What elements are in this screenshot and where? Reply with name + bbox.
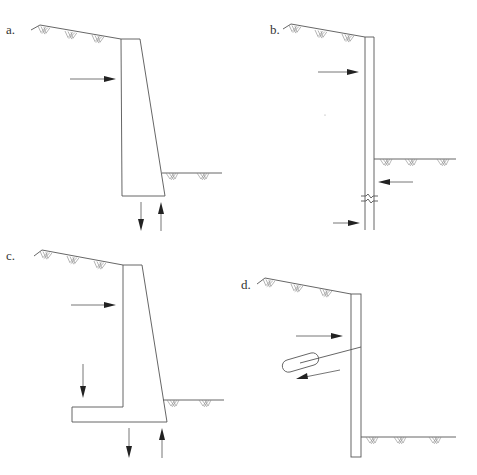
panel-d-sheet-pile xyxy=(351,294,361,457)
panel-c-soil-weight-arrow xyxy=(80,364,86,398)
panel-c-earth-pressure-arrow xyxy=(71,302,116,308)
panel-a-front-ground xyxy=(162,173,222,180)
panel-b-passive-pressure-arrow xyxy=(378,179,413,185)
panel-d-earth-pressure-arrow xyxy=(296,333,343,339)
panel-b-label: b. xyxy=(270,22,280,37)
panel-c-backfill-ground xyxy=(34,250,123,270)
panel-b-sheet-pile xyxy=(361,37,378,230)
panel-d-front-ground xyxy=(361,437,456,444)
panel-d-label: d. xyxy=(241,277,251,292)
panel-c: c. xyxy=(6,248,224,458)
panel-a-down-arrow xyxy=(138,202,144,231)
panel-b-backfill-ground xyxy=(283,24,365,43)
speck xyxy=(324,114,325,115)
panel-d-backfill-ground xyxy=(257,278,351,298)
panel-c-down-arrow xyxy=(126,428,132,458)
panel-a-earth-pressure-arrow xyxy=(70,76,116,82)
panel-a-up-arrow xyxy=(158,202,164,231)
panel-b: b. xyxy=(270,22,456,230)
panel-d-tieback-anchor xyxy=(282,347,361,372)
panel-c-up-arrow xyxy=(159,428,165,458)
panel-b-toe-pressure-arrow xyxy=(333,220,360,226)
retaining-walls-diagram: a. b. xyxy=(0,0,477,475)
panel-d: d. xyxy=(241,277,456,457)
panel-c-front-ground xyxy=(163,400,224,407)
panel-a-gravity-wall xyxy=(121,39,165,196)
panel-b-front-ground xyxy=(374,159,456,166)
panel-c-label: c. xyxy=(6,248,15,263)
panel-c-cantilever-wall xyxy=(72,265,167,422)
panel-b-active-pressure-arrow xyxy=(318,69,359,75)
panel-a-backfill-ground xyxy=(31,25,121,44)
panel-a: a. xyxy=(6,22,222,231)
panel-d-anchor-force-arrow xyxy=(296,370,340,379)
panel-a-label: a. xyxy=(6,22,15,37)
